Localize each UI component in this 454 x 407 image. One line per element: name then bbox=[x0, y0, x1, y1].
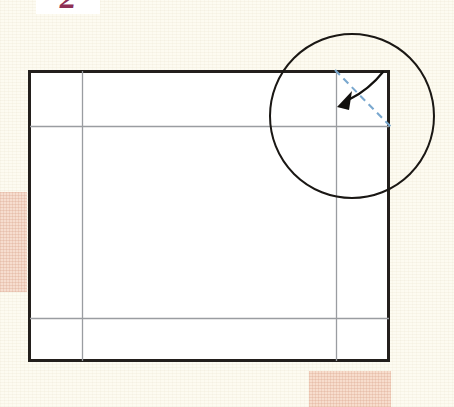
step-number-label: 2 bbox=[36, 0, 100, 14]
step-number-text: 2 bbox=[60, 0, 77, 14]
paper-sheet bbox=[30, 72, 389, 361]
diagram-canvas: 2 bbox=[0, 0, 454, 407]
fold-diagram-figure bbox=[0, 0, 454, 407]
